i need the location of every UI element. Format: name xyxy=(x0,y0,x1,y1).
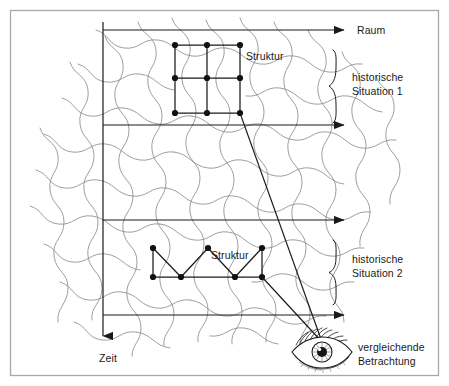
diagram-figure: Raum Zeit Struktur Struktur historische … xyxy=(0,0,449,386)
eye-highlight xyxy=(318,348,321,351)
figure-border xyxy=(11,11,439,376)
label-observer-line-2: Betrachtung xyxy=(358,354,416,368)
label-situation-1-line-2: Situation 1 xyxy=(352,84,403,98)
label-struktur-top: Struktur xyxy=(246,50,284,63)
label-situation-1-line-1: historische xyxy=(352,70,403,84)
axis-label-zeit: Zeit xyxy=(99,352,117,365)
label-observer-line-1: vergleichende xyxy=(358,340,425,354)
label-situation-2-line-2: Situation 2 xyxy=(352,266,403,280)
diagram-canvas xyxy=(0,0,449,386)
label-struktur-bottom: Struktur xyxy=(211,249,249,262)
label-situation-2-line-1: historische xyxy=(352,252,403,266)
axis-label-raum: Raum xyxy=(357,24,385,37)
